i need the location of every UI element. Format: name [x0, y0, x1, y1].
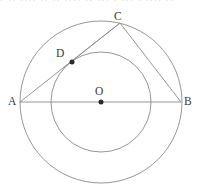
point-label-C: C — [114, 11, 122, 23]
point-label-D: D — [56, 48, 64, 60]
geometry-figure: · ·· ···· ·· ·· ···· ·· ··· · ··· · ····… — [0, 0, 199, 192]
point-label-B: B — [184, 96, 192, 108]
point-marker-O — [99, 100, 104, 105]
point-label-O: O — [95, 86, 103, 98]
point-label-A: A — [8, 96, 16, 108]
point-marker-D — [70, 60, 75, 65]
